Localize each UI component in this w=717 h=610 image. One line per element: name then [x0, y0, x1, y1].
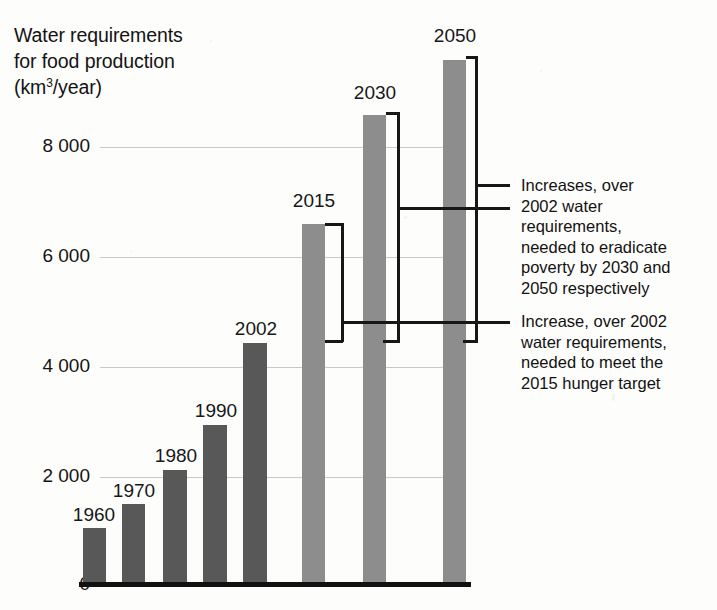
bar-label-1960: 1960: [58, 504, 130, 526]
bar-2002[interactable]: [243, 343, 267, 586]
y-tick-4000: 4 000: [8, 355, 90, 377]
bracket-2030-stem: [397, 112, 400, 342]
y-tick-0: 0: [8, 573, 90, 595]
bar-label-2002: 2002: [220, 318, 292, 340]
leader-line-2050-to-annotation: [475, 184, 510, 187]
bar-label-2030: 2030: [339, 82, 411, 104]
leader-line-2015-to-annotation: [341, 321, 510, 324]
bar-label-1970: 1970: [98, 480, 170, 502]
annotation-increases-2030-2050: Increases, over 2002 water requirements,…: [521, 175, 711, 298]
bar-1960[interactable]: [83, 528, 106, 586]
bar-label-2015: 2015: [278, 190, 350, 212]
water-requirements-chart: Water requirements for food production (…: [0, 0, 717, 610]
leader-line-2030-to-annotation: [397, 207, 510, 210]
bracket-2015-stem: [341, 223, 344, 342]
gridline-8000: [100, 147, 466, 148]
bar-2015[interactable]: [302, 224, 325, 586]
bracket-2015-bottom-arm: [325, 340, 343, 343]
scan-speckle: [404, 216, 407, 219]
gridline-6000: [100, 257, 466, 258]
bracket-2050-bottom-arm: [463, 340, 478, 343]
plot-area: 8 000 6 000 4 000 2 000 0 1960 1970 1980…: [0, 0, 717, 610]
scan-speckle: [210, 40, 212, 42]
annotation-increase-2015-hunger: Increase, over 2002 water requirements, …: [521, 311, 711, 393]
scan-speckle: [540, 70, 542, 72]
scan-speckle: [130, 250, 132, 252]
gridline-4000: [100, 367, 466, 368]
y-tick-6000: 6 000: [8, 245, 90, 267]
gridline-2000: [100, 477, 466, 478]
bracket-2050-stem: [475, 56, 478, 342]
bar-label-2050: 2050: [419, 25, 491, 47]
scan-speckle: [612, 393, 615, 401]
x-axis-line: [79, 582, 471, 587]
bar-2030[interactable]: [363, 115, 386, 586]
bar-label-1980: 1980: [140, 445, 212, 467]
bracket-2030-bottom-arm: [383, 340, 400, 343]
y-tick-2000: 2 000: [8, 465, 90, 487]
bar-label-1990: 1990: [180, 400, 252, 422]
y-tick-8000: 8 000: [8, 135, 90, 157]
